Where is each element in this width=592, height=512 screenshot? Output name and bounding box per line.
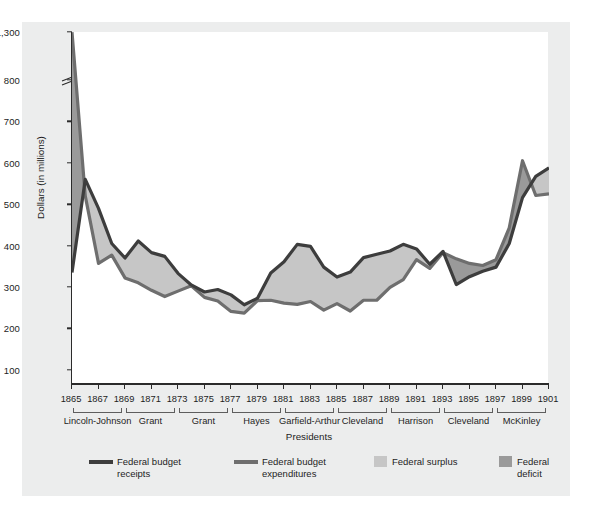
y-axis: Dollars (in millions) 100200300400500600… bbox=[22, 22, 71, 397]
legend-item-3[interactable]: Federal deficit bbox=[499, 456, 571, 479]
x-tick-label-1897: 1897 bbox=[485, 394, 506, 404]
legend-line-swatch-icon bbox=[89, 460, 113, 465]
president-bracket bbox=[497, 408, 546, 413]
y-tick-label-1300: 1,300 bbox=[0, 27, 20, 38]
president-label-1: Grant bbox=[139, 416, 162, 426]
legend-item-2[interactable]: Federal surplus bbox=[374, 456, 457, 468]
x-tick-label-1889: 1889 bbox=[379, 394, 400, 404]
x-tick-mark bbox=[389, 383, 390, 389]
x-tick-mark bbox=[442, 383, 443, 389]
president-label-4: Garfield-Arthur bbox=[279, 416, 340, 426]
x-tick-mark bbox=[124, 383, 125, 389]
x-tick-mark bbox=[230, 383, 231, 389]
x-tick-label-1867: 1867 bbox=[87, 394, 108, 404]
x-tick-mark bbox=[336, 383, 337, 389]
chart-canvas bbox=[72, 32, 549, 383]
x-tick-mark bbox=[495, 383, 496, 389]
y-tick-label-800: 800 bbox=[4, 75, 20, 86]
x-tick-mark bbox=[469, 383, 470, 389]
legend-box-swatch-icon bbox=[499, 456, 512, 467]
president-label-0: Lincoln-Johnson bbox=[64, 416, 132, 426]
legend-label: Federal deficit bbox=[517, 456, 571, 479]
chart-page: Dollars (in millions) 100200300400500600… bbox=[0, 0, 592, 512]
x-tick-mark bbox=[416, 383, 417, 389]
president-label-7: Cleveland bbox=[448, 416, 489, 426]
x-tick-label-1883: 1883 bbox=[299, 394, 320, 404]
x-tick-label-1895: 1895 bbox=[458, 394, 479, 404]
x-tick-mark bbox=[151, 383, 152, 389]
legend-label: Federal budget receipts bbox=[117, 456, 181, 479]
legend-line-swatch-icon bbox=[234, 460, 258, 465]
x-tick-mark bbox=[257, 383, 258, 389]
president-bracket bbox=[179, 408, 228, 413]
x-tick-mark bbox=[71, 383, 72, 389]
legend-label: Federal budget expenditures bbox=[262, 456, 326, 479]
x-tick-label-1887: 1887 bbox=[352, 394, 373, 404]
x-tick-label-1877: 1877 bbox=[220, 394, 241, 404]
x-tick-mark bbox=[204, 383, 205, 389]
president-bracket bbox=[338, 408, 387, 413]
y-tick-label-100: 100 bbox=[4, 364, 20, 375]
x-tick-label-1901: 1901 bbox=[538, 394, 559, 404]
legend-label: Federal surplus bbox=[392, 456, 457, 468]
legend-item-1[interactable]: Federal budget expenditures bbox=[234, 456, 326, 479]
x-tick-label-1885: 1885 bbox=[326, 394, 347, 404]
x-tick-label-1879: 1879 bbox=[246, 394, 267, 404]
legend-item-0[interactable]: Federal budget receipts bbox=[89, 456, 181, 479]
y-tick-label-400: 400 bbox=[4, 240, 20, 251]
president-bracket bbox=[444, 408, 493, 413]
x-tick-label-1899: 1899 bbox=[511, 394, 532, 404]
president-bracket bbox=[285, 408, 334, 413]
legend-box-swatch-icon bbox=[374, 456, 387, 467]
x-tick-mark bbox=[177, 383, 178, 389]
president-bracket bbox=[73, 408, 122, 413]
y-tick-label-300: 300 bbox=[4, 282, 20, 293]
y-tick-label-200: 200 bbox=[4, 323, 20, 334]
chart-legend: Federal budget receiptsFederal budget ex… bbox=[71, 456, 571, 490]
x-tick-mark bbox=[310, 383, 311, 389]
president-label-5: Cleveland bbox=[342, 416, 383, 426]
x-tick-mark bbox=[548, 383, 549, 389]
surplus-band bbox=[85, 179, 444, 313]
president-label-3: Hayes bbox=[243, 416, 269, 426]
x-axis-title: Presidents bbox=[286, 431, 332, 442]
x-tick-mark bbox=[98, 383, 99, 389]
x-tick-label-1871: 1871 bbox=[140, 394, 161, 404]
x-tick-mark bbox=[363, 383, 364, 389]
y-tick-label-500: 500 bbox=[4, 199, 20, 210]
president-label-2: Grant bbox=[192, 416, 215, 426]
president-label-8: McKinley bbox=[503, 416, 541, 426]
y-axis-title: Dollars (in millions) bbox=[35, 98, 46, 258]
president-label-6: Harrison bbox=[398, 416, 433, 426]
president-bracket bbox=[232, 408, 281, 413]
x-tick-label-1873: 1873 bbox=[167, 394, 188, 404]
x-tick-label-1875: 1875 bbox=[193, 394, 214, 404]
x-tick-label-1881: 1881 bbox=[273, 394, 294, 404]
x-tick-mark bbox=[522, 383, 523, 389]
x-tick-label-1865: 1865 bbox=[61, 394, 82, 404]
x-tick-mark bbox=[283, 383, 284, 389]
plot-area bbox=[71, 32, 548, 383]
y-tick-label-700: 700 bbox=[4, 116, 20, 127]
president-bracket bbox=[391, 408, 440, 413]
y-tick-label-600: 600 bbox=[4, 157, 20, 168]
x-tick-label-1869: 1869 bbox=[114, 394, 135, 404]
president-bracket bbox=[126, 408, 175, 413]
x-tick-label-1893: 1893 bbox=[432, 394, 453, 404]
x-tick-label-1891: 1891 bbox=[405, 394, 426, 404]
chart-figure-panel: Dollars (in millions) 100200300400500600… bbox=[22, 22, 570, 496]
